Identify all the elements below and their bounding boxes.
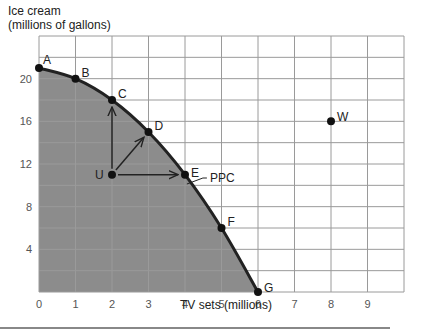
ppc-label: PPC bbox=[210, 171, 235, 185]
x-tick-label: 0 bbox=[36, 298, 42, 310]
y-tick-label: 20 bbox=[20, 73, 32, 85]
x-tick-label: 8 bbox=[328, 298, 334, 310]
point-E bbox=[181, 171, 189, 179]
point-label-A: A bbox=[43, 53, 51, 67]
x-tick-label: 7 bbox=[291, 298, 297, 310]
x-tick-label: 2 bbox=[109, 298, 115, 310]
x-tick-label: 3 bbox=[145, 298, 151, 310]
point-label-W: W bbox=[337, 110, 349, 124]
point-label-U: U bbox=[95, 168, 104, 182]
y-tick-label: 4 bbox=[26, 243, 32, 255]
x-tick-label: 9 bbox=[364, 298, 370, 310]
point-W bbox=[327, 117, 335, 125]
point-label-F: F bbox=[228, 215, 235, 229]
x-axis-label: TV sets (millions) bbox=[180, 298, 272, 312]
divider bbox=[0, 327, 390, 329]
point-label-D: D bbox=[155, 119, 164, 133]
point-A bbox=[35, 64, 43, 72]
ppc-chart: 012345678948121620ABCDEFGUWPPC bbox=[0, 0, 426, 334]
point-F bbox=[218, 224, 226, 232]
point-U bbox=[108, 171, 116, 179]
point-C bbox=[108, 96, 116, 104]
x-tick-label: 1 bbox=[72, 298, 78, 310]
point-label-B: B bbox=[82, 66, 90, 80]
y-tick-label: 12 bbox=[20, 158, 32, 170]
point-B bbox=[72, 75, 80, 83]
point-label-C: C bbox=[118, 87, 127, 101]
point-label-G: G bbox=[264, 281, 273, 295]
point-G bbox=[254, 288, 262, 296]
y-tick-label: 8 bbox=[26, 201, 32, 213]
point-label-E: E bbox=[191, 166, 199, 180]
y-tick-label: 16 bbox=[20, 115, 32, 127]
point-D bbox=[145, 128, 153, 136]
